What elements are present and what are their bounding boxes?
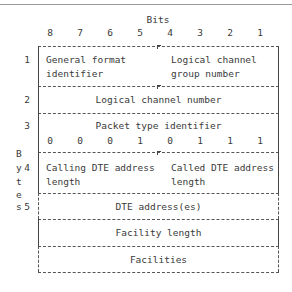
packet-type-bit-1: 1: [250, 135, 270, 146]
bit-number-8: 8: [40, 27, 60, 38]
bytes-label-letter-s: s: [16, 201, 22, 212]
midpoint-tick: [157, 85, 161, 89]
logical-channel-group-line1: Logical channel: [171, 54, 257, 65]
logical-channel-group-line2: group number: [171, 68, 240, 79]
called-dte-address-length-line2: length: [171, 176, 205, 187]
midpoint-tick: [157, 45, 161, 49]
row-divider-bottom: [38, 272, 279, 273]
byte-number-1: 1: [10, 54, 30, 65]
byte-number-2: 2: [10, 94, 30, 105]
bit-number-3: 3: [190, 27, 210, 38]
dte-addresses: DTE address(es): [38, 201, 279, 212]
facilities: Facilities: [38, 254, 279, 265]
packet-type-bit-2: 1: [220, 135, 240, 146]
bytes-label-letter-t: t: [16, 176, 22, 187]
called-dte-address-length-line1: Called DTE address: [171, 162, 274, 173]
bit-number-4: 4: [160, 27, 180, 38]
bit-number-7: 7: [70, 27, 90, 38]
bytes-label-letter-y: y: [16, 162, 22, 173]
bits-heading: Bits: [0, 14, 292, 25]
packet-type-bit-4: 0: [160, 135, 180, 146]
packet-type-bit-8: 0: [40, 135, 60, 146]
calling-dte-address-length-line1: Calling DTE address: [46, 162, 155, 173]
bit-number-6: 6: [100, 27, 120, 38]
top-rule: [0, 4, 292, 5]
facility-length: Facility length: [38, 227, 279, 238]
packet-type-bit-7: 0: [70, 135, 90, 146]
logical-channel-number: Logical channel number: [38, 94, 279, 105]
packet-type-bit-3: 1: [190, 135, 210, 146]
bit-number-1: 1: [250, 27, 270, 38]
row-divider-5-6: [38, 219, 279, 220]
bit-number-2: 2: [220, 27, 240, 38]
calling-dte-address-length-line2: length: [46, 176, 80, 187]
bytes-label-letter-b: B: [16, 148, 22, 159]
packet-type-identifier: Packet type identifier: [38, 120, 279, 131]
row-divider-2-3: [38, 113, 279, 114]
byte-number-3: 3: [10, 120, 30, 131]
packet-type-bit-5: 1: [130, 135, 150, 146]
midpoint-tick: [157, 151, 161, 155]
general-format-identifier-line2: identifier: [46, 68, 103, 79]
bit-number-5: 5: [130, 27, 150, 38]
row-divider-6-7: [38, 246, 279, 247]
row-divider-4-5: [38, 193, 279, 194]
packet-type-bit-6: 0: [100, 135, 120, 146]
general-format-identifier-line1: General format: [46, 54, 126, 65]
bytes-label-letter-e: e: [16, 189, 22, 200]
